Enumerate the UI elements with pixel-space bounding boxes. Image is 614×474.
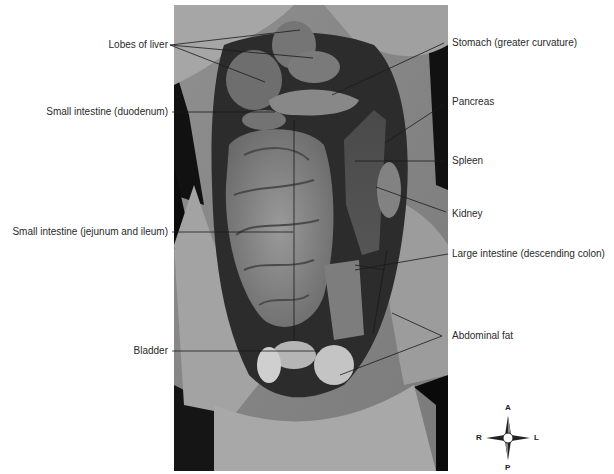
compass-left: L — [534, 433, 539, 442]
label-stomach: Stomach (greater curvature) — [452, 37, 577, 49]
leader-lobes-of-liver-1 — [170, 30, 300, 45]
label-lobes-of-liver: Lobes of liver — [109, 39, 168, 51]
orientation-compass: A P R L — [470, 405, 540, 471]
leader-lobes-of-liver-3 — [170, 45, 265, 82]
label-small-intestine-jejunum-ileum: Small intestine (jejunum and ileum) — [12, 226, 168, 238]
label-abdominal-fat: Abdominal fat — [452, 330, 513, 342]
leader-abdominal-fat-2 — [340, 336, 442, 375]
leader-stomach — [332, 43, 444, 95]
leader-pancreas — [385, 103, 446, 143]
label-small-intestine-duodenum: Small intestine (duodenum) — [46, 106, 168, 118]
anatomy-figure: Lobes of liver Small intestine (duodenum… — [0, 0, 614, 474]
label-kidney: Kidney — [452, 208, 483, 220]
label-bladder: Bladder — [134, 345, 168, 357]
leader-abdominal-fat-1 — [392, 313, 442, 336]
compass-right: R — [476, 433, 482, 442]
leader-kidney — [376, 187, 446, 212]
label-large-intestine: Large intestine (descending colon) — [452, 248, 605, 260]
compass-posterior: P — [505, 463, 510, 472]
leader-lobes-of-liver-2 — [170, 45, 313, 58]
leader-large-intestine-bracket-1 — [373, 250, 387, 334]
label-pancreas: Pancreas — [452, 96, 494, 108]
compass-anterior: A — [505, 403, 511, 412]
label-spleen: Spleen — [452, 155, 483, 167]
